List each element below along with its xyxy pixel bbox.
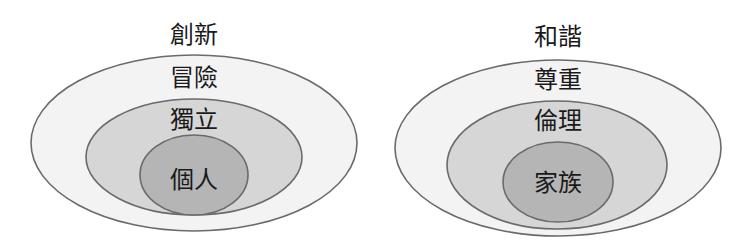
nested-ellipse-diagrams: 創新 冒險 獨立 個人 和諧 尊重 倫理 家族 [0, 0, 747, 251]
inner-layer-label: 個人 [170, 166, 218, 194]
outer-layer-label: 尊重 [534, 66, 582, 94]
middle-layer-label: 倫理 [534, 107, 582, 135]
outer-layer-label: 冒險 [170, 64, 218, 92]
diagram-title: 創新 [170, 21, 218, 49]
diagram-innovation: 創新 冒險 獨立 個人 [31, 21, 357, 231]
diagram-title: 和諧 [534, 23, 582, 51]
middle-layer-label: 獨立 [170, 106, 218, 134]
diagram-harmony: 和諧 尊重 倫理 家族 [395, 23, 721, 236]
inner-layer-label: 家族 [534, 169, 582, 197]
